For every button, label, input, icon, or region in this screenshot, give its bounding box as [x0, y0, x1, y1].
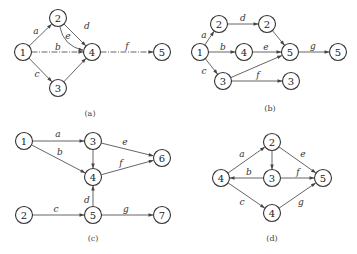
edge-a-n3-n4 [64, 59, 86, 82]
node-b-n5a: 5 [282, 44, 299, 61]
edge-label-c-a: a [55, 129, 60, 139]
edge-c-f [101, 160, 153, 174]
node-label: 6 [159, 153, 165, 164]
edge-label-a-f: f [124, 41, 130, 51]
node-b-n2a: 2 [211, 16, 228, 33]
node-c-n3: 3 [85, 133, 102, 150]
node-a-n5: 5 [154, 44, 171, 61]
edge-a-c [29, 58, 52, 81]
edge-label-d-e: e [300, 149, 305, 159]
node-label: 1 [197, 47, 203, 58]
diagram-canvas: 1243512245533134625742354 abcdef(a)adbec… [0, 0, 357, 254]
node-label: 3 [220, 76, 226, 87]
node-d-n4b: 4 [264, 205, 281, 222]
node-b-n3a: 3 [215, 73, 232, 90]
edge-label-a-e: e [65, 31, 70, 41]
node-b-n1: 1 [192, 44, 209, 61]
edge-label-c-f: f [118, 158, 124, 168]
edge-label-c-d: d [84, 195, 90, 205]
node-label: 5 [335, 47, 341, 58]
node-a-n4: 4 [84, 44, 101, 61]
node-d-n3: 3 [264, 170, 281, 187]
node-label: 5 [90, 210, 96, 221]
node-label: 4 [89, 47, 95, 58]
node-a-n1: 1 [15, 44, 32, 61]
edge-label-a-a: a [33, 26, 38, 36]
edge-label-c-c: c [53, 204, 58, 214]
caption-b: (b) [264, 104, 275, 113]
edge-label-c-e: e [122, 137, 127, 147]
node-label: 2 [216, 19, 222, 30]
node-label: 2 [55, 13, 61, 24]
node-b-n4: 4 [236, 44, 253, 61]
edge-label-a-b: b [55, 42, 61, 52]
node-label: 4 [241, 47, 247, 58]
node-label: 2 [21, 210, 27, 221]
edge-label-d-b: b [246, 167, 252, 177]
node-label: 1 [20, 47, 26, 58]
node-b-n3b: 3 [283, 73, 300, 90]
node-b-n5b: 5 [330, 44, 347, 61]
caption-c: (c) [88, 234, 99, 243]
node-label: 7 [159, 210, 165, 221]
node-c-n6: 6 [154, 150, 171, 167]
edge-d-c [228, 183, 265, 208]
node-label: 5 [159, 47, 165, 58]
edge-label-b-b: b [220, 42, 226, 52]
edge-label-d-a: a [239, 149, 244, 159]
node-d-n5: 5 [315, 170, 332, 187]
node-a-n2: 2 [50, 10, 67, 27]
edge-label-c-g: g [123, 204, 129, 214]
edge-a-d [60, 26, 84, 50]
edge-label-a-c: c [34, 69, 39, 79]
node-label: 4 [218, 173, 224, 184]
node-label: 3 [55, 83, 61, 94]
edge-label-d-g: g [298, 197, 304, 207]
node-label: 2 [269, 137, 275, 148]
edge-label-b-g: g [310, 41, 316, 51]
edge-label-b-c: c [201, 66, 206, 76]
edge-label-c-b: b [57, 147, 63, 157]
node-b-n2b: 2 [259, 16, 276, 33]
edge-b-c [205, 59, 217, 74]
node-label: 5 [320, 173, 326, 184]
node-c-n5: 5 [85, 207, 102, 224]
caption-d: (d) [266, 234, 277, 243]
node-c-n1: 1 [16, 133, 33, 150]
node-c-n2: 2 [16, 207, 33, 224]
node-d-n4a: 4 [213, 170, 230, 187]
network-diagrams-figure: 1243512245533134625742354 abcdef(a)adbec… [0, 0, 357, 254]
node-label: 3 [288, 76, 294, 87]
edge-b-n2b-n5a [272, 31, 284, 45]
node-label: 4 [90, 172, 96, 183]
node-a-n3: 3 [50, 80, 67, 97]
edge-label-d-f: f [295, 167, 301, 177]
node-c-n4: 4 [85, 169, 102, 186]
node-label: 5 [287, 47, 293, 58]
edge-label-b-a: a [201, 30, 206, 40]
edge-label-b-f: f [255, 70, 261, 80]
node-label: 3 [90, 136, 96, 147]
edge-label-b-e: e [263, 42, 268, 52]
node-d-n2: 2 [264, 134, 281, 151]
caption-a: (a) [84, 109, 95, 118]
edge-label-d-c: c [239, 197, 244, 207]
node-label: 1 [21, 136, 27, 147]
node-label: 4 [269, 208, 275, 219]
edge-label-a-d: d [84, 21, 90, 31]
node-label: 3 [269, 173, 275, 184]
node-c-n7: 7 [154, 207, 171, 224]
node-label: 2 [264, 19, 270, 30]
edge-label-b-d: d [240, 13, 246, 23]
